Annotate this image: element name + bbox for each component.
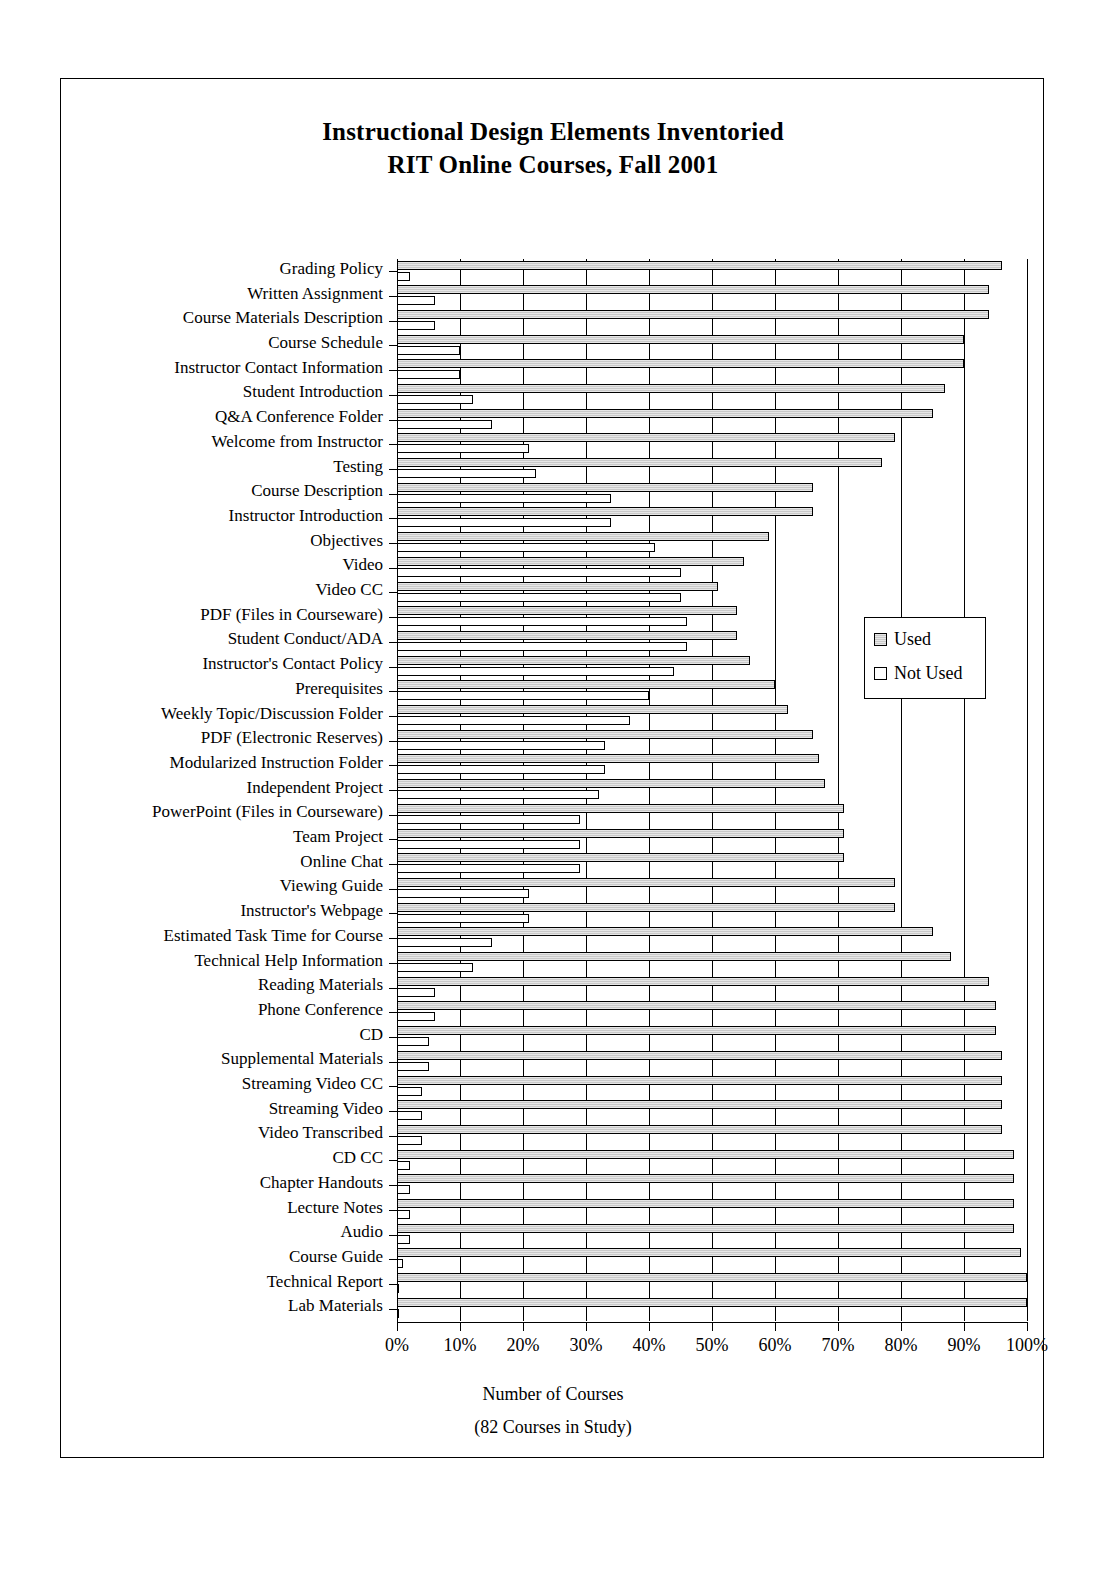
y-axis-label: Testing [333,454,383,480]
x-axis-tick-label: 60% [740,1335,810,1356]
y-axis-tick [389,864,397,865]
y-axis-tick [389,1185,397,1186]
bar-not-used [397,691,649,700]
bar-row [397,407,1027,433]
legend-swatch-used-icon [874,633,887,646]
y-axis-tick [389,420,397,421]
bar-used [397,557,744,566]
bar-row [397,975,1027,1001]
bar-not-used [397,642,687,651]
bar-used [397,1076,1002,1085]
bar-used [397,582,718,591]
bar-row [397,728,1027,754]
x-axis-tick-label: 50% [677,1335,747,1356]
bar-used [397,927,933,936]
bar-not-used [397,790,599,799]
bar-used [397,829,844,838]
bar-not-used [397,272,410,281]
bar-not-used [397,469,536,478]
bar-row [397,1173,1027,1199]
legend-label-not-used: Not Used [894,663,963,683]
bar-row [397,1148,1027,1174]
bar-used [397,1150,1014,1159]
y-axis-labels: Grading PolicyWritten AssignmentCourse M… [61,259,387,1321]
y-axis-tick [389,815,397,816]
bar-used [397,977,989,986]
legend-item-not-used: Not Used [874,662,963,684]
y-axis-label: Instructor's Contact Policy [202,651,383,677]
y-axis-tick [389,1309,397,1310]
chart-title-line1: Instructional Design Elements Inventorie… [61,115,1045,148]
bar-used [397,952,951,961]
bar-not-used [397,1259,403,1268]
y-axis-tick [389,642,397,643]
y-axis-label: Instructor Introduction [229,503,383,529]
bar-not-used [397,321,435,330]
x-axis-tick-label: 0% [362,1335,432,1356]
y-axis-tick [389,271,397,272]
bar-not-used [397,1136,422,1145]
y-axis-tick [389,913,397,914]
y-axis-label: Q&A Conference Folder [215,404,383,430]
y-axis-label: PowerPoint (Files in Courseware) [152,799,383,825]
bar-not-used [397,395,473,404]
bar-row [397,926,1027,952]
y-axis-label: Video CC [316,577,383,603]
bar-row [397,901,1027,927]
chart-page: Instructional Design Elements Inventorie… [0,0,1102,1594]
gridline-100 [1027,259,1028,1321]
bar-not-used [397,1087,422,1096]
plot-area [397,259,1027,1321]
bar-row [397,555,1027,581]
bar-not-used [397,1062,429,1071]
bar-used [397,310,989,319]
y-axis-tick [389,765,397,766]
bar-row [397,1074,1027,1100]
bar-used [397,532,769,541]
bar-row [397,1222,1027,1248]
y-axis-tick [389,321,397,322]
bar-used [397,1100,1002,1109]
y-axis-tick [389,543,397,544]
y-axis-tick [389,296,397,297]
x-axis-tick [712,1322,713,1331]
bar-row [397,1296,1027,1322]
x-axis-tick [460,1322,461,1331]
y-axis-tick [389,790,397,791]
y-axis-label: Lab Materials [288,1293,383,1319]
y-axis-tick [389,1086,397,1087]
bar-not-used [397,1235,410,1244]
y-axis-label: Audio [341,1219,384,1245]
y-axis-label: Weekly Topic/Discussion Folder [161,701,383,727]
bar-used [397,853,844,862]
bar-row [397,531,1027,557]
y-axis-label: CD [359,1022,383,1048]
bar-row [397,1049,1027,1075]
x-axis-tick-label: 20% [488,1335,558,1356]
y-axis-tick [389,1235,397,1236]
x-axis-tick-label: 10% [425,1335,495,1356]
bar-row [397,876,1027,902]
y-axis-label: Course Schedule [268,330,383,356]
bar-row [397,1123,1027,1149]
bar-used [397,507,813,516]
y-axis-tick [389,345,397,346]
bar-not-used [397,518,611,527]
y-axis-label: Grading Policy [280,256,383,282]
bar-row [397,827,1027,853]
bar-row [397,432,1027,458]
y-axis-tick [389,691,397,692]
y-axis-label: Student Introduction [243,379,383,405]
bar-row [397,308,1027,334]
bar-row [397,1025,1027,1051]
bar-not-used [397,667,674,676]
y-axis-tick [389,938,397,939]
bar-used [397,606,737,615]
y-axis-label: Welcome from Instructor [212,429,383,455]
bar-row [397,951,1027,977]
bar-used [397,804,844,813]
y-axis-label: Team Project [293,824,383,850]
bar-row [397,753,1027,779]
bar-row [397,1198,1027,1224]
bar-used [397,1248,1021,1257]
